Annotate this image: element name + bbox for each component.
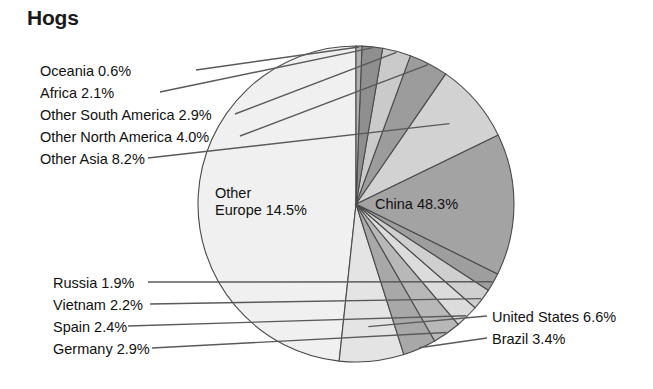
slice-label-other-europe: Other Europe 14.5% bbox=[215, 185, 307, 219]
slice-label-oceania: Oceania 0.6% bbox=[40, 64, 131, 79]
slice-label-spain: Spain 2.4% bbox=[53, 320, 127, 335]
slice-label-vietnam: Vietnam 2.2% bbox=[53, 298, 143, 313]
slice-label-other-north-america: Other North America 4.0% bbox=[40, 130, 209, 145]
slice-label-russia: Russia 1.9% bbox=[53, 276, 134, 291]
slice-label-other-europe-line1: Other bbox=[215, 185, 307, 202]
slice-label-united-states: United States 6.6% bbox=[492, 310, 616, 325]
slice-label-other-europe-line2: Europe 14.5% bbox=[215, 202, 307, 219]
slice-label-germany: Germany 2.9% bbox=[53, 342, 150, 357]
slice-label-africa: Africa 2.1% bbox=[40, 86, 114, 101]
slice-label-other-asia: Other Asia 8.2% bbox=[40, 152, 145, 167]
slice-label-china: China 48.3% bbox=[375, 196, 458, 213]
slice-label-brazil: Brazil 3.4% bbox=[492, 332, 565, 347]
slice-label-other-south-america: Other South America 2.9% bbox=[40, 108, 212, 123]
